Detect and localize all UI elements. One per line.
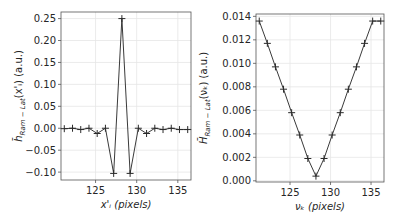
plus-marker (160, 126, 167, 133)
plus-marker (102, 125, 109, 132)
plus-marker (85, 125, 92, 132)
plus-marker (110, 170, 117, 177)
x-tick-label: 125 (86, 185, 105, 196)
x-tick-label: 135 (168, 185, 187, 196)
y-label-argument: (νₖ) (a.u.) (198, 52, 209, 100)
y-label-subscript: Ram − Lat (204, 99, 212, 136)
data-line (259, 21, 381, 176)
y-tick-label: 0.006 (222, 105, 251, 116)
plus-marker (353, 63, 360, 70)
y-label-argument: (x'ᵢ) (a.u.) (13, 50, 24, 98)
y-tick-label: 0.008 (222, 81, 251, 92)
plus-marker (184, 126, 191, 133)
data-markers (256, 18, 385, 180)
plus-marker (377, 18, 384, 25)
y-label-subscript: Ram − Lat (19, 98, 27, 135)
y-tick-label: 0.012 (222, 34, 251, 45)
plus-marker (361, 40, 368, 47)
plus-marker (321, 155, 328, 162)
plus-marker (304, 155, 311, 162)
plus-marker (69, 125, 76, 132)
x-axis-label: νₖ (pixels) (295, 201, 345, 212)
plus-marker (168, 125, 175, 132)
plus-marker (272, 63, 279, 70)
y-tick-label: 0.15 (34, 57, 56, 68)
plus-marker (61, 125, 68, 132)
y-tick-label: −0.10 (25, 167, 56, 178)
y-tick-label: 0.010 (222, 58, 251, 69)
y-tick-label: 0.014 (222, 11, 251, 22)
y-tick-label: 0.25 (34, 13, 56, 24)
plus-marker (312, 173, 319, 180)
x-tick-label: 130 (321, 187, 340, 198)
plus-marker (94, 130, 101, 137)
x-axis-label: x'ᵢ (pixels) (100, 199, 152, 210)
plus-marker (143, 130, 150, 137)
y-tick-label: 0.002 (222, 152, 251, 163)
plus-marker (135, 125, 142, 132)
axes-frame (256, 14, 384, 182)
y-tick-label: −0.05 (25, 145, 56, 156)
plus-marker (176, 126, 183, 133)
plus-marker (296, 132, 303, 139)
y-tick-label: 0.10 (34, 79, 56, 90)
plus-marker (329, 132, 336, 139)
right-plot-frequency-response: 1251301350.0000.0020.0040.0060.0080.0100… (197, 11, 384, 212)
y-tick-label: 0.05 (34, 101, 56, 112)
grid-lines (256, 14, 384, 182)
plus-marker (151, 125, 158, 132)
plus-marker (118, 15, 125, 22)
y-tick-label: 0.004 (222, 128, 251, 139)
figure: 125130135−0.10−0.050.000.050.100.150.200… (0, 0, 398, 220)
left-plot-spatial-filter: 125130135−0.10−0.050.000.050.100.150.200… (12, 12, 191, 210)
y-axis-label: H̄Ram − Lat(νₖ) (a.u.) (197, 52, 212, 144)
plus-marker (256, 18, 263, 25)
x-tick-label: 135 (361, 187, 380, 198)
y-tick-label: 0.00 (34, 123, 56, 134)
plus-marker (127, 170, 134, 177)
x-tick-label: 130 (127, 185, 146, 196)
y-axis-label: h̄Ram − Lat(x'ᵢ) (a.u.) (12, 50, 27, 142)
y-tick-label: 0.000 (222, 175, 251, 186)
x-tick-label: 125 (280, 187, 299, 198)
plus-marker (369, 18, 376, 25)
plus-marker (264, 40, 271, 47)
plus-marker (77, 126, 84, 133)
y-tick-label: 0.20 (34, 35, 56, 46)
